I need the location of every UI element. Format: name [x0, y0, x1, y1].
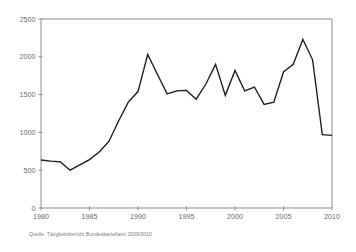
x-tick-label: 2010: [324, 212, 340, 221]
x-tick-label: 2000: [227, 212, 243, 221]
x-tick-label: 1990: [130, 212, 146, 221]
source-note: Quelle: Tätigkeitsbericht Bundeskartella…: [29, 231, 152, 238]
chart-figure: 05001000150020002500 1980198519901995200…: [0, 0, 356, 252]
x-axis-ticks: 1980198519901995200020052010: [33, 207, 340, 222]
plot-frame: [41, 19, 332, 208]
x-tick-label: 1985: [82, 212, 98, 221]
data-series-group: [41, 39, 332, 170]
y-tick-label: 1500: [20, 90, 36, 99]
y-axis-ticks: 05001000150020002500: [20, 15, 43, 213]
y-tick-label: 2000: [20, 52, 36, 61]
axes: [41, 19, 332, 208]
data-line-anzahl: [41, 39, 332, 170]
x-tick-label: 1980: [33, 212, 49, 221]
x-tick-label: 2005: [276, 212, 292, 221]
line-chart-plot: 05001000150020002500 1980198519901995200…: [0, 0, 356, 252]
y-tick-label: 2500: [20, 15, 36, 24]
y-tick-label: 1000: [20, 128, 36, 137]
y-tick-label: 500: [24, 166, 36, 175]
x-tick-label: 1995: [179, 212, 195, 221]
